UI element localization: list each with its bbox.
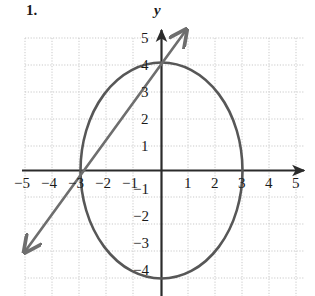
x-tick-neg-4: −4 xyxy=(41,176,57,191)
y-tick-3: 3 xyxy=(141,85,149,100)
x-tick-3: 3 xyxy=(238,176,246,191)
grid-lines xyxy=(25,38,305,296)
x-tick-neg-1: −1 xyxy=(122,176,138,191)
x-tick-2: 2 xyxy=(211,176,219,191)
y-tick-neg-4: −4 xyxy=(133,263,149,278)
y-tick-neg-3: −3 xyxy=(133,236,149,251)
y-tick-4: 4 xyxy=(141,58,149,73)
x-tick-neg-5: −5 xyxy=(14,176,30,191)
x-tick-5: 5 xyxy=(292,176,300,191)
x-tick-4: 4 xyxy=(265,176,273,191)
y-axis-label: y xyxy=(154,2,161,19)
x-tick-1: 1 xyxy=(184,176,192,191)
y-tick-neg-2: −2 xyxy=(133,209,149,224)
y-tick-5: 5 xyxy=(141,31,149,46)
y-tick-2: 2 xyxy=(141,112,149,127)
x-tick-neg-3: −3 xyxy=(68,176,84,191)
y-tick-1: 1 xyxy=(141,139,149,154)
figure-container: 1. xyxy=(0,0,315,296)
coordinate-plane xyxy=(0,0,315,296)
x-tick-neg-2: −2 xyxy=(95,176,111,191)
